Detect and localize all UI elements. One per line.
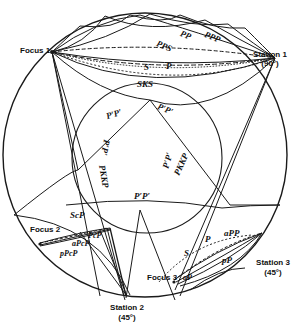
station-2-label: Station 2 [102, 303, 152, 312]
focus-2-label: Focus 2 [30, 225, 60, 234]
phase-pp3-label: pP [222, 256, 232, 265]
core-circle [72, 83, 222, 233]
station-3-distance: (45°) [248, 268, 292, 277]
phase-scp-label: ScP [70, 211, 85, 220]
phase-pprimepprime-bottom-label: P′P′ [134, 192, 150, 201]
station-1-distance: (90°) [245, 59, 292, 68]
phase-pprimepprime-left-label: P′P′ [99, 139, 111, 156]
phase-ppcp-label: pPcP [60, 249, 77, 258]
focus-3-label: Focus 3 [147, 273, 177, 282]
station-3-label: Station 3 [248, 258, 292, 267]
phase-ap3-label: aP [183, 273, 192, 282]
phase-p3-label: P [205, 235, 211, 244]
phase-app-label: aPP [224, 229, 240, 238]
phase-p-label: P [166, 62, 172, 71]
focus-1-marker [50, 50, 54, 54]
station-1-label: Station 1 [245, 50, 292, 59]
phase-s-label: S [144, 63, 149, 72]
station-2-distance: (45°) [102, 313, 152, 322]
phase-apcp-label: aPcP [72, 239, 89, 248]
phase-pcp-label: PcP [88, 231, 101, 240]
phase-s3-label: S [184, 249, 189, 258]
focus-2-marker [38, 242, 41, 245]
phase-sks-label: SKS [137, 80, 153, 89]
focus-1-label: Focus 1 [20, 46, 50, 55]
seismic-ray-diagram: Focus 1 Station 1 (90°) Focus 2 Station … [0, 0, 292, 325]
